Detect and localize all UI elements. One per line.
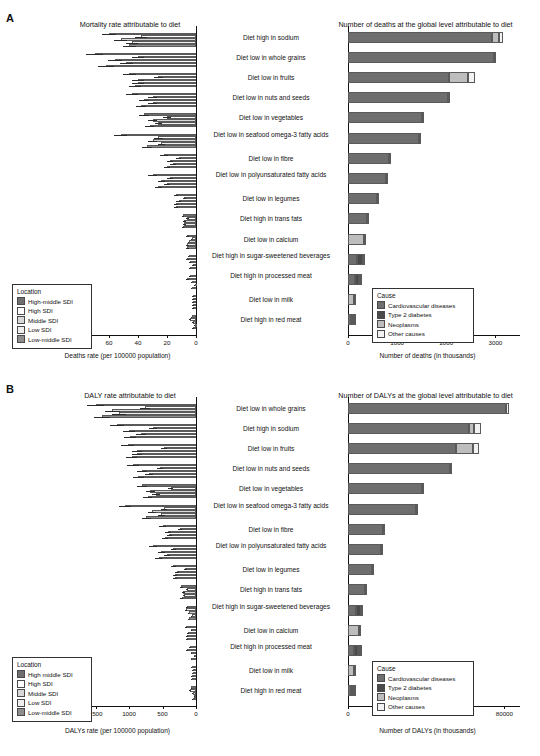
error-bar [189, 268, 190, 269]
legend-b2-row-3: Other causes [377, 703, 469, 711]
legend-b2-label-0: Cardiovascular diseases [388, 675, 455, 682]
legend-a2-swatch-0 [377, 301, 385, 309]
panel-b: DALY rate attributable to diet Number of… [0, 371, 540, 756]
error-bar [102, 34, 117, 35]
bar [141, 105, 196, 107]
legend-b-label-1: High SDI [28, 680, 53, 687]
bar [129, 44, 196, 46]
stacked-bar-segment [348, 544, 381, 555]
error-bar [174, 195, 178, 196]
error-bar [186, 248, 189, 249]
error-bar [114, 135, 127, 136]
category-label: Diet high in trans fats [196, 215, 346, 223]
panel-a: Mortality rate attributable to diet Numb… [0, 0, 540, 370]
bar [176, 206, 196, 208]
stacked-bar-segment [354, 685, 356, 696]
x-tick-label: 0 [330, 710, 366, 717]
legend-a2-row-0: Cardiovascular diseases [377, 301, 469, 309]
legend-cause-b: Cause Cardiovascular diseases Type 2 dia… [372, 661, 474, 716]
legend-a-swatch-3 [17, 326, 25, 334]
bar [132, 456, 196, 458]
error-bar [185, 610, 187, 611]
bar [135, 85, 196, 87]
error-bar [87, 405, 104, 406]
x-tick-mark [348, 706, 349, 709]
error-bar [114, 40, 127, 41]
stacked-bar-segment [499, 32, 503, 43]
error-bar [174, 207, 178, 208]
stacked-bar-segment [354, 294, 356, 305]
legend-b-title: Location [17, 661, 87, 668]
bar [191, 658, 196, 660]
x-tick-label: 0 [182, 339, 210, 346]
legend-b-label-0: High middle SDI [28, 671, 73, 678]
stacked-bar-segment [348, 274, 355, 285]
bar [130, 436, 196, 438]
x-tick-label: 3000 [477, 339, 513, 346]
x-tick-label: 500 [149, 710, 177, 717]
stacked-bar-segment [416, 504, 418, 515]
category-label: Diet low in whole grains [196, 54, 346, 62]
stacked-bar-segment [348, 423, 469, 434]
x-tick-label: 0 [182, 710, 210, 717]
legend-b2-swatch-0 [377, 674, 385, 682]
chart-a-right-title: Number of deaths at the global level att… [318, 20, 533, 29]
stacked-bar-segment [348, 133, 419, 144]
error-bar [124, 437, 136, 438]
legend-a-label-2: Middle SDI [28, 317, 58, 324]
x-tick-label: 40 [124, 339, 152, 346]
error-bar [148, 141, 157, 142]
error-bar [191, 679, 192, 680]
x-tick-mark [129, 706, 130, 709]
error-bar [191, 659, 192, 660]
error-bar [186, 650, 188, 651]
error-bar [171, 566, 176, 567]
category-label: Diet high in red meat [196, 316, 346, 324]
error-bar [148, 175, 157, 176]
error-bar [192, 308, 193, 309]
chart-a-left-title: Mortality rate attributable to diet [30, 20, 230, 29]
bar [147, 145, 196, 147]
category-label: Diet low in nuts and seeds [196, 465, 346, 473]
error-bar [148, 120, 157, 121]
stacked-bar-segment [348, 564, 372, 575]
error-bar [191, 282, 192, 283]
category-label: Diet high in sugar-sweetened beverages [196, 252, 346, 260]
legend-b2-row-0: Cardiovascular diseases [377, 674, 469, 682]
stacked-bar-segment [348, 584, 365, 595]
legend-a2-label-3: Other causes [388, 330, 425, 337]
legend-a2-row-3: Other causes [377, 330, 469, 338]
error-bar [98, 66, 114, 67]
error-bar [188, 619, 190, 620]
error-bar [192, 699, 193, 700]
x-tick-label: 0 [330, 339, 366, 346]
error-bar [110, 425, 124, 426]
legend-b-label-4: Low-middle SDI [28, 709, 72, 716]
stacked-bar-segment [348, 625, 359, 636]
stacked-bar-segment [448, 92, 450, 103]
x-tick-mark [504, 706, 505, 709]
error-bar [186, 236, 189, 237]
x-tick-label: 1000 [115, 710, 143, 717]
stacked-bar-segment [422, 112, 424, 123]
legend-cause-a: Cause Cardiovascular diseases Type 2 dia… [372, 288, 474, 343]
legend-b2-label-1: Type 2 diabetes [388, 684, 432, 691]
legend-b-label-2: Middle SDI [28, 690, 58, 697]
error-bar [86, 54, 103, 55]
legend-b-swatch-2 [17, 689, 25, 697]
x-tick-label: 60 [95, 339, 123, 346]
chart-a-right-xlabel: Number of deaths (in thousands) [330, 352, 525, 359]
error-bar [142, 518, 151, 519]
bar [146, 516, 196, 518]
error-bar [143, 497, 152, 498]
x-tick-label: 20 [153, 339, 181, 346]
stacked-bar-segment [348, 213, 367, 224]
legend-a-row-0: High-middle SDI [17, 297, 87, 305]
error-bar [189, 319, 190, 320]
stacked-bar-segment [348, 524, 383, 535]
x-tick-mark [196, 706, 197, 709]
error-bar [148, 512, 156, 513]
bar [165, 537, 196, 539]
stacked-bar-segment [474, 423, 481, 434]
stacked-bar-segment [348, 443, 456, 454]
